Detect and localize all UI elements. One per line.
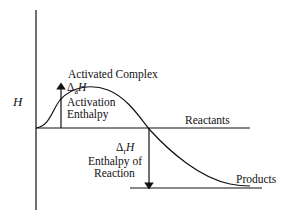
diagram-graphics xyxy=(0,0,289,223)
products-label: Products xyxy=(236,173,276,185)
reaction-label-line2: Reaction xyxy=(94,167,135,179)
activation-label-line1: Activation xyxy=(67,96,116,108)
enthalpy-diagram: H Activated Complex ΔaH Activation Entha… xyxy=(0,0,289,223)
var-h: H xyxy=(78,81,86,93)
axis-label-h: H xyxy=(13,96,22,108)
activated-complex-label: Activated Complex xyxy=(68,68,158,80)
reactants-label: Reactants xyxy=(185,114,230,126)
activation-label-line2: Enthalpy xyxy=(67,108,109,120)
reaction-label-line1: Enthalpy of xyxy=(88,155,142,167)
var-h: H xyxy=(126,141,134,153)
